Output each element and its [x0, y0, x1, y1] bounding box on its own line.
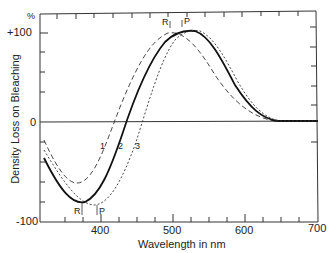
curve-label-3: 3: [135, 141, 140, 151]
x-axis-title: Wavelength in nm: [138, 238, 226, 250]
annotation-R-top: R: [162, 17, 169, 27]
y-unit-label: %: [27, 11, 35, 21]
y-tick-100: +100: [7, 26, 32, 38]
curve-3: [44, 30, 318, 205]
annotation-P-bottom: P: [99, 206, 105, 216]
annotation-P-top: P: [184, 16, 190, 26]
x-tick-400: 400: [91, 224, 109, 236]
curve-label-1: 1: [100, 141, 105, 151]
curve-1: [44, 33, 318, 183]
axis-frame: [40, 11, 318, 222]
curve-2: [44, 31, 318, 203]
chart: % +100 0 -100 Density Loss on Bleaching …: [0, 0, 330, 253]
x-tick-500: 500: [163, 224, 181, 236]
y-tick-minus100: -100: [16, 215, 38, 227]
y-axis-title: Density Loss on Bleaching: [9, 49, 21, 189]
x-tick-700: 700: [308, 222, 326, 234]
y-tick-0: 0: [30, 116, 36, 128]
annotation-R-bottom: R: [74, 206, 81, 216]
curve-label-2: 2: [118, 141, 123, 151]
plot-area: [0, 0, 330, 253]
x-tick-600: 600: [235, 224, 253, 236]
